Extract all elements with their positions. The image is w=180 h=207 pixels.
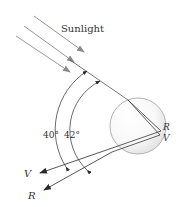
angle-arcs	[55, 71, 100, 170]
angle-label-40: 40°	[43, 130, 59, 140]
sunlight-label: Sunlight	[61, 23, 104, 34]
exit-label-red: R	[27, 190, 36, 201]
exit-ray-red	[44, 152, 112, 190]
exit-ray-violet	[40, 146, 118, 173]
rainbow-refraction-diagram: Sunlight 40° 42° R V V R	[0, 0, 180, 207]
incident-ray	[70, 60, 128, 100]
exit-label-violet: V	[24, 168, 33, 179]
angle-label-42: 42°	[64, 130, 80, 140]
back-label-red: R	[162, 122, 170, 132]
back-label-violet: V	[163, 133, 171, 143]
